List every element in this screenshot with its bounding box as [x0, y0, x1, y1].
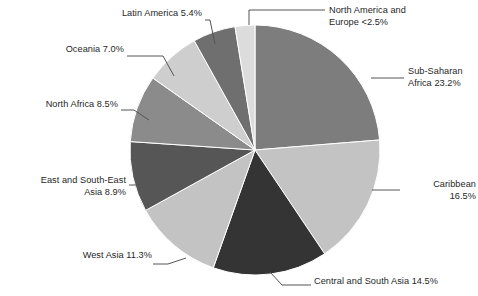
- leader-line-north-america-europe: [249, 10, 325, 25]
- slice-label-east-and-south-east-asia: East and South-East Asia 8.9%: [8, 175, 126, 198]
- pie-slice-sub-saharan-africa: [255, 25, 380, 150]
- slice-label-north-africa: North Africa 8.5%: [14, 99, 118, 111]
- slice-label-latin-america: Latin America 5.4%: [92, 8, 202, 20]
- slice-label-oceania: Oceania 7.0%: [52, 44, 124, 56]
- pie-chart: North America and Europe <2.5% Sub-Sahar…: [0, 0, 478, 296]
- slice-label-west-asia: West Asia 11.3%: [56, 250, 152, 262]
- slice-label-north-america-and-europe: North America and Europe <2.5%: [329, 5, 474, 28]
- slice-label-caribbean: Caribbean 16.5%: [404, 179, 476, 202]
- slice-label-sub-saharan-africa: Sub-Saharan Africa 23.2%: [408, 66, 478, 89]
- pie-slice-group: [130, 25, 380, 275]
- leader-line-west-asia: [153, 258, 186, 264]
- leader-line-central-south-asia: [270, 272, 311, 285]
- slice-label-central-and-south-asia: Central and South Asia 14.5%: [314, 276, 478, 288]
